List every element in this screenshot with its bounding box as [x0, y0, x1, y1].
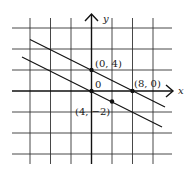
graph-svg: y x 0 (0, 4) (8, 0) (4, −2) — [0, 0, 192, 176]
point-4-neg2 — [110, 99, 114, 103]
point-origin — [89, 89, 93, 93]
coordinate-diagram: y x 0 (0, 4) (8, 0) (4, −2) — [0, 0, 192, 176]
point-label-8-0: (8, 0) — [134, 78, 161, 89]
point-8-0 — [130, 89, 134, 93]
point-label-4-neg2: (4, −2) — [75, 106, 110, 117]
origin-label: 0 — [95, 79, 101, 90]
axes — [12, 14, 173, 164]
x-axis-label: x — [178, 85, 184, 96]
point-label-0-4: (0, 4) — [95, 58, 122, 69]
y-axis-label: y — [102, 13, 109, 24]
point-0-4 — [89, 68, 93, 72]
